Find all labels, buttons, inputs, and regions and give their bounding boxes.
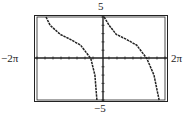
x-max-label: 2π bbox=[171, 53, 182, 64]
graph-window bbox=[0, 0, 194, 115]
y-max-label: 5 bbox=[98, 1, 104, 12]
y-min-label: −5 bbox=[94, 103, 106, 114]
x-min-label: −2π bbox=[1, 53, 18, 64]
